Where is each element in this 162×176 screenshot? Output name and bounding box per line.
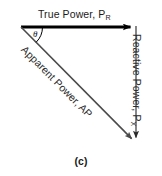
true-power-label-text: True Power, P [38,8,105,20]
reactive-power-subscript: X [129,122,137,127]
apparent-power-vector [21,27,132,139]
reactive-power-label: Reactive Power, PX [131,34,142,126]
true-power-subscript: R [105,14,110,22]
true-power-label: True Power, PR [38,9,111,20]
reactive-power-label-text: Reactive Power, P [131,34,143,122]
theta-angle-label: θ [33,30,38,39]
figure-caption: (c) [0,156,162,167]
power-triangle-figure: True Power, PR Reactive Power, PX Appare… [0,0,162,176]
